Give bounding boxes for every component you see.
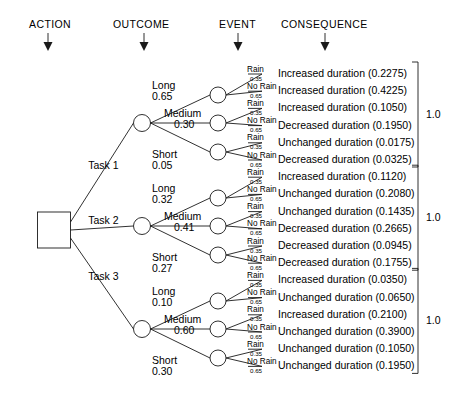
action-label-2[interactable]: Task 2 — [88, 214, 118, 226]
event-node-2-3[interactable] — [210, 247, 226, 263]
event-label-17: No Rain — [247, 357, 277, 366]
event-prob-4: 0.35 — [250, 143, 262, 150]
event-node-1-1[interactable] — [210, 87, 226, 103]
column-header-consequence: CONSEQUENCE — [281, 18, 368, 30]
consequence-11: Decreased duration (0.1755) — [278, 256, 412, 268]
event-prob-10: 0.35 — [250, 247, 262, 254]
arrow-down-icon — [140, 42, 149, 51]
outcome-node-3[interactable] — [134, 321, 151, 338]
consequence-16: Unchanged duration (0.1050) — [278, 342, 415, 354]
outcome-prob-1-2: 0.30 — [174, 118, 194, 130]
outcome-prob-3-3: 0.30 — [152, 365, 172, 377]
consequence-7: Unchanged duration (0.2080) — [278, 187, 415, 199]
consequence-6: Increased duration (0.1120) — [278, 170, 406, 182]
event-prob-1: 0.65 — [250, 92, 262, 99]
consequence-15: Unchanged duration (0.3900) — [278, 325, 415, 337]
event-prob-16: 0.35 — [250, 350, 262, 357]
outcome-prob-2-1: 0.32 — [152, 193, 172, 205]
outcome-prob-2-2: 0.41 — [174, 221, 194, 233]
consequence-4: Unchanged duration (0.0175) — [278, 136, 415, 148]
event-node-3-3[interactable] — [210, 350, 226, 366]
event-node-1-3[interactable] — [210, 144, 226, 160]
event-label-1: No Rain — [247, 82, 277, 91]
event-label-12: Rain — [247, 271, 264, 280]
action-edge-1 — [71, 123, 134, 222]
decision-node[interactable] — [38, 212, 71, 248]
event-label-16: Rain — [247, 340, 264, 349]
event-prob-6: 0.35 — [250, 178, 262, 185]
event-label-10: Rain — [247, 237, 264, 246]
event-node-1-2[interactable] — [210, 115, 226, 131]
consequence-14: Increased duration (0.2100) — [278, 308, 407, 320]
consequence-17: Unchanged duration (0.1950) — [278, 359, 415, 371]
event-node-3-1[interactable] — [210, 293, 226, 309]
event-label-11: No Rain — [247, 254, 277, 263]
column-header-event: EVENT — [219, 18, 256, 30]
consequence-5: Decreased duration (0.0325) — [278, 153, 412, 165]
outcome-prob-1-1: 0.65 — [152, 90, 172, 102]
event-label-6: Rain — [247, 168, 264, 177]
consequence-12: Increased duration (0.0350) — [278, 273, 407, 285]
outcome-node-2[interactable] — [134, 218, 151, 235]
arrow-down-icon — [321, 42, 330, 51]
event-prob-12: 0.35 — [250, 281, 262, 288]
event-prob-9: 0.65 — [250, 229, 262, 236]
consequence-3: Decreased duration (0.1950) — [278, 119, 412, 131]
consequence-9: Decreased duration (0.2665) — [278, 222, 412, 234]
action-label-1[interactable]: Task 1 — [88, 159, 118, 171]
event-prob-8: 0.35 — [250, 212, 262, 219]
event-label-0: Rain — [247, 65, 264, 74]
event-node-3-2[interactable] — [210, 321, 226, 337]
event-label-4: Rain — [247, 133, 264, 142]
event-node-2-1[interactable] — [210, 190, 226, 206]
event-prob-5: 0.65 — [250, 161, 262, 168]
consequence-0: Increased duration (0.2275) — [278, 67, 407, 79]
event-prob-3: 0.65 — [250, 126, 262, 133]
event-node-2-2[interactable] — [210, 218, 226, 234]
group-total-3: 1.0 — [426, 314, 441, 326]
outcome-prob-3-1: 0.10 — [152, 296, 172, 308]
outcome-prob-1-3: 0.05 — [152, 159, 172, 171]
action-label-3[interactable]: Task 3 — [88, 270, 118, 282]
event-prob-15: 0.65 — [250, 333, 262, 340]
event-label-3: No Rain — [247, 116, 277, 125]
event-prob-0: 0.35 — [250, 75, 262, 82]
event-label-13: No Rain — [247, 288, 277, 297]
arrow-down-icon — [234, 42, 243, 51]
consequence-13: Unchanged duration (0.0650) — [278, 291, 415, 303]
outcome-prob-2-3: 0.27 — [152, 262, 172, 274]
event-label-5: No Rain — [247, 151, 277, 160]
event-label-7: No Rain — [247, 185, 277, 194]
event-label-8: Rain — [247, 202, 264, 211]
column-header-action: ACTION — [29, 18, 71, 30]
event-prob-7: 0.65 — [250, 195, 262, 202]
event-label-9: No Rain — [247, 219, 277, 228]
column-header-outcome: OUTCOME — [113, 18, 169, 30]
event-label-15: No Rain — [247, 323, 277, 332]
consequence-10: Decreased duration (0.0945) — [278, 239, 412, 251]
outcome-prob-3-2: 0.60 — [174, 324, 194, 336]
group-total-1: 1.0 — [426, 108, 441, 120]
event-prob-11: 0.65 — [250, 264, 262, 271]
action-edge-3 — [71, 238, 134, 329]
event-label-14: Rain — [247, 305, 264, 314]
event-prob-2: 0.35 — [250, 109, 262, 116]
event-prob-14: 0.35 — [250, 315, 262, 322]
action-edge-2 — [71, 226, 134, 230]
group-total-2: 1.0 — [426, 211, 441, 223]
arrow-down-icon — [44, 42, 53, 51]
event-label-2: Rain — [247, 99, 264, 108]
consequence-1: Increased duration (0.4225) — [278, 84, 407, 96]
event-prob-13: 0.65 — [250, 298, 262, 305]
consequence-2: Increased duration (0.1050) — [278, 101, 407, 113]
consequence-8: Unchanged duration (0.1435) — [278, 205, 415, 217]
event-prob-17: 0.65 — [250, 367, 262, 374]
decision-tree-diagram: ACTIONOUTCOMEEVENTCONSEQUENCETask 1Long0… — [0, 0, 460, 396]
outcome-node-1[interactable] — [134, 115, 151, 132]
